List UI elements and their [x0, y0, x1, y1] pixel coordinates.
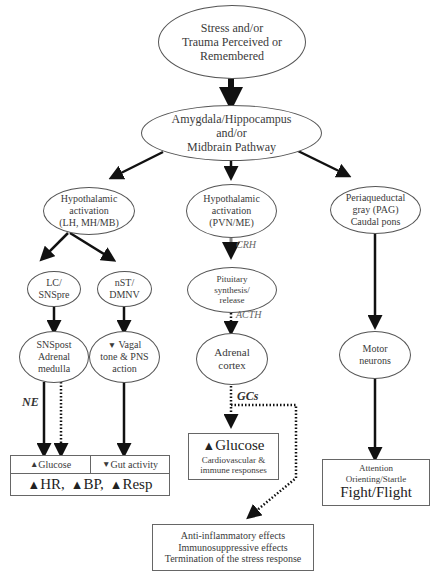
arrow-amygdala-pag	[296, 150, 347, 175]
up-triangle-icon: ▲	[28, 478, 41, 492]
node-amygdala: Amygdala/Hippocampus and/or Midbrain Pat…	[141, 105, 322, 161]
node-hypothalamic-left: Hypothalamic activation (LH, MH/MB)	[43, 187, 135, 235]
arrow-amygdala-hypo-left	[113, 152, 163, 177]
node-line: synthesis/	[214, 285, 250, 296]
node-line: Orienting/Startle	[346, 474, 407, 485]
node-line: Termination of the stress response	[165, 553, 302, 565]
node-line: Adrenal	[214, 346, 249, 359]
up-triangle-icon: ▲	[71, 478, 84, 492]
node-line: Adrenal	[38, 351, 70, 363]
node-amygdala-line: Amygdala/Hippocampus	[172, 112, 292, 126]
node-line: tone & PNS	[100, 351, 148, 363]
node-adrenal-cortex: Adrenal cortex	[196, 333, 268, 385]
node-line: ▼ Vagal	[108, 339, 142, 351]
node-line: Motor	[363, 343, 388, 355]
node-line: SNSpost	[36, 339, 71, 351]
arrow-hypo-lc	[43, 233, 68, 258]
edge-label-ne: NE	[22, 395, 39, 410]
node-line-text: Vagal	[118, 339, 141, 350]
vital-resp-text: Resp	[122, 476, 152, 492]
cell-gut: ▼Gut activity	[91, 456, 169, 473]
node-line: action	[112, 363, 136, 375]
node-line: gray (PAG)	[352, 204, 398, 216]
node-line: LC/	[46, 277, 62, 289]
down-triangle-icon: ▼	[102, 459, 110, 469]
node-stress: Stress and/or Trauma Perceived or Rememb…	[158, 5, 306, 79]
vital-resp: ▲Resp	[110, 476, 153, 494]
node-line: activation	[212, 205, 251, 217]
node-line: neurons	[359, 355, 391, 367]
node-line: Hypothalamic	[203, 193, 260, 205]
vital-bp-text: BP,	[83, 476, 103, 492]
node-line: Anti-inflammatory effects	[181, 530, 286, 542]
node-line: (PVN/ME)	[209, 217, 253, 229]
box-sns-outputs: ▲Glucose ▼Gut activity ▲HR, ▲BP, ▲Resp	[10, 455, 170, 496]
node-line: Immunosuppressive effects	[178, 542, 288, 554]
box-glucose-title: ▲Glucose	[203, 437, 265, 455]
node-amygdala-line: Midbrain Pathway	[187, 140, 276, 154]
node-line: DMNV	[109, 289, 140, 301]
box-attention-title: Fight/Flight	[340, 484, 412, 502]
node-line: nST/	[115, 277, 134, 289]
cell-glucose-text: Glucose	[38, 459, 71, 471]
node-nst: nST/ DMNV	[97, 271, 152, 307]
edge-label-acth: ACTH	[236, 309, 262, 320]
node-hypothalamic-mid: Hypothalamic activation (PVN/ME)	[186, 184, 277, 238]
node-line: cortex	[218, 359, 245, 372]
down-triangle-icon: ▼	[108, 340, 116, 350]
node-line: release	[220, 295, 245, 306]
node-pituitary: Pituitary synthesis/ release	[187, 267, 277, 313]
vital-hr: ▲HR,	[28, 476, 65, 494]
edge-label-gcs: GCs	[237, 389, 258, 404]
node-stress-line: Trauma Perceived or	[182, 35, 282, 49]
cell-glucose: ▲Glucose	[11, 456, 91, 473]
node-vagal: ▼ Vagal tone & PNS action	[89, 331, 160, 383]
node-snspost: SNSpost Adrenal medulla	[19, 331, 89, 383]
up-triangle-icon: ▲	[30, 459, 38, 469]
vital-hr-text: HR,	[40, 476, 65, 492]
node-lc: LC/ SNSpre	[27, 271, 81, 307]
cell-vitals: ▲HR, ▲BP, ▲Resp	[28, 474, 153, 495]
node-line: activation	[69, 205, 108, 217]
vital-bp: ▲BP,	[71, 476, 104, 494]
node-line: (LH, MH/MB)	[59, 217, 118, 229]
edge-label-crh: CRH	[236, 239, 256, 250]
node-line: immune responses	[200, 465, 267, 476]
node-amygdala-line: and/or	[216, 126, 247, 140]
node-line: Periaqueductal	[346, 192, 405, 204]
cell-gut-text: Gut activity	[110, 459, 158, 471]
up-triangle-icon: ▲	[203, 439, 216, 453]
glucose-title-text: Glucose	[215, 437, 264, 453]
node-line: Hypothalamic	[61, 193, 118, 205]
box-glucose-mid: ▲Glucose Cardiovascular & immune respons…	[188, 433, 279, 480]
node-line: Attention	[359, 463, 393, 474]
node-line: SNSpre	[38, 289, 69, 301]
node-line: Pituitary	[217, 274, 248, 285]
node-stress-line: Remembered	[200, 49, 264, 63]
box-row-top: ▲Glucose ▼Gut activity	[11, 456, 169, 474]
node-stress-line: Stress and/or	[201, 21, 263, 35]
node-motor: Motor neurons	[339, 331, 411, 379]
node-pag: Periaqueductal gray (PAG) Caudal pons	[330, 186, 421, 234]
box-attention: Attention Orienting/Startle Fight/Flight	[322, 459, 430, 506]
box-anti-inflammatory: Anti-inflammatory effects Immunosuppress…	[152, 524, 314, 571]
node-line: medulla	[38, 363, 70, 375]
arrow-hypo-nst	[70, 233, 112, 259]
up-triangle-icon: ▲	[110, 478, 123, 492]
node-line: Cardiovascular &	[202, 455, 266, 466]
node-line: Caudal pons	[351, 216, 401, 228]
